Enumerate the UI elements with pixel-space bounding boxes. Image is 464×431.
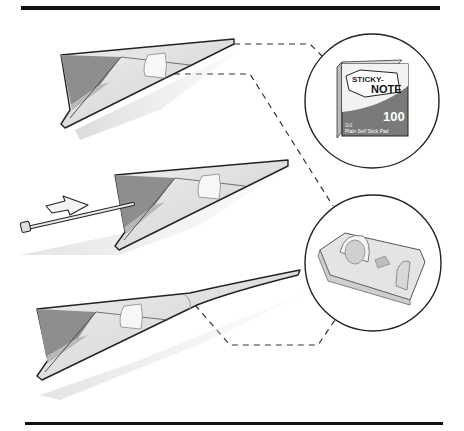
illustration-stage: STICKY- NOTE 100 3x3 Plain Self Stick Pa… [0, 0, 464, 431]
sticky-note-tab [144, 53, 167, 78]
plane-step-1 [61, 39, 240, 140]
sticky-note-sublabel-2: Plain Self Stick Pad [345, 128, 389, 134]
sticky-note-count: 100 [383, 109, 405, 124]
diagram-canvas: STICKY- NOTE 100 3x3 Plain Self Stick Pa… [0, 0, 464, 431]
sticky-note-label-2: NOTE [371, 83, 402, 95]
plane-step-2 [20, 160, 290, 255]
sticky-note-pad-icon: STICKY- NOTE 100 3x3 Plain Self Stick Pa… [337, 60, 408, 138]
sticky-note-tab [198, 174, 221, 199]
connector-step1-to-sticky-note [234, 44, 322, 56]
sticky-note-tab [120, 304, 143, 329]
callout-tape-dispenser [305, 195, 441, 331]
plane-step-3 [37, 270, 300, 400]
push-arrow-icon [46, 196, 88, 215]
callout-sticky-note: STICKY- NOTE 100 3x3 Plain Self Stick Pa… [305, 34, 439, 168]
pin-head [20, 221, 31, 233]
